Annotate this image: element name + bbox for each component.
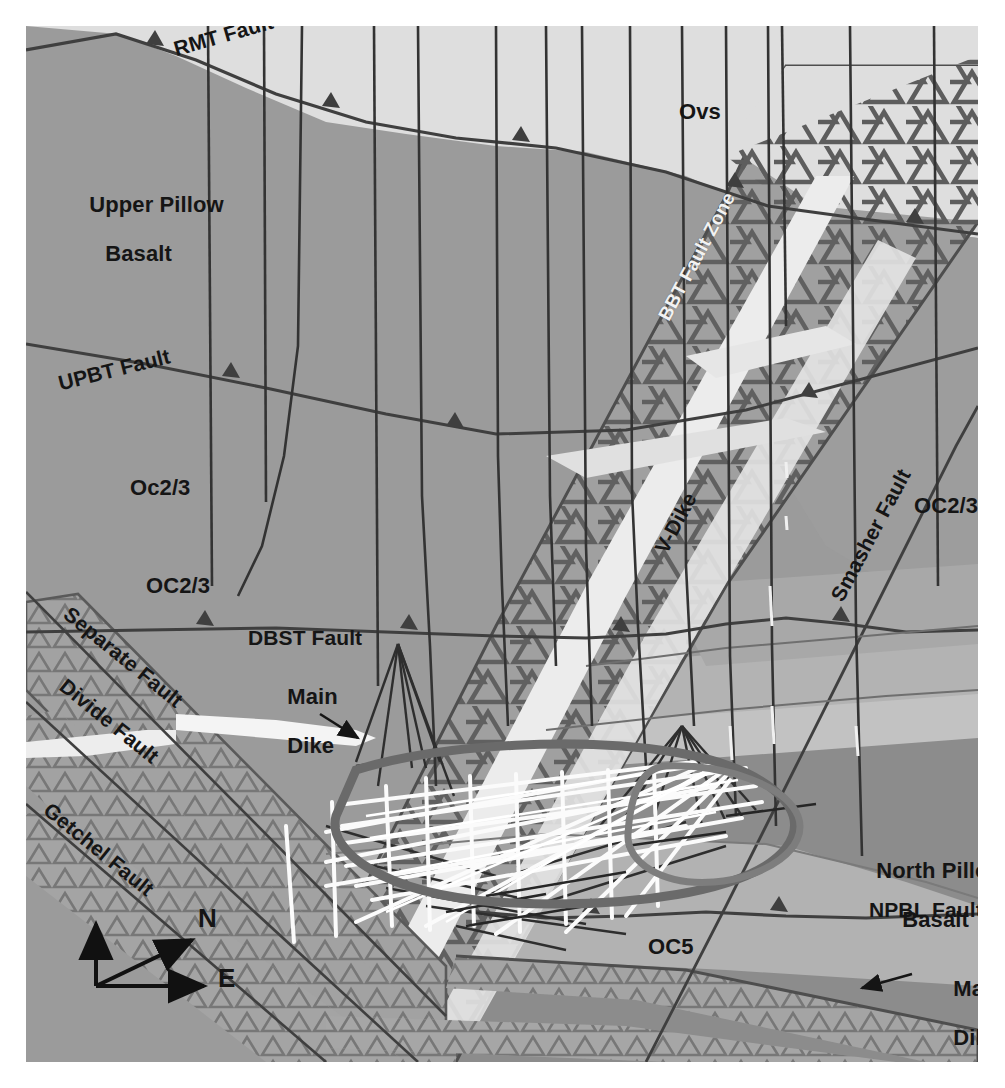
annotation-layer (26, 26, 978, 1062)
cross-section-figure: Upper Pillow Basalt Ovs Oc2/3 OC2/3 OC2/… (26, 26, 978, 1062)
figure-page: Upper Pillow Basalt Ovs Oc2/3 OC2/3 OC2/… (0, 0, 1005, 1088)
main-dike-left-leader (320, 714, 358, 738)
main-dike-right-leader (862, 974, 912, 988)
compass-rose-graphic (96, 924, 204, 986)
compass-east-label: E (218, 964, 235, 993)
compass-north-label: N (198, 904, 217, 933)
